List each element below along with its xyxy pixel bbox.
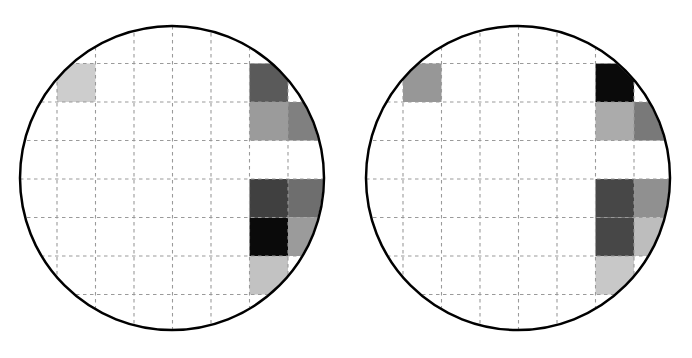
wafer-cell	[403, 64, 442, 103]
wafer-cell	[596, 218, 635, 257]
wafer-map-left-svg	[0, 0, 346, 358]
wafer-cell	[250, 256, 289, 295]
wafer-cell	[250, 102, 289, 141]
wafer-cell	[57, 64, 96, 103]
wafer-cell	[250, 64, 289, 103]
wafer-map-figure	[0, 0, 692, 358]
wafer-cell	[596, 256, 635, 295]
wafer-map-right-svg	[346, 0, 692, 358]
wafer-panel-right	[346, 0, 692, 358]
wafer-panel-left	[0, 0, 346, 358]
wafer-cell	[596, 102, 635, 141]
wafer-cell	[250, 179, 289, 218]
wafer-cell	[250, 218, 289, 257]
wafer-cell	[288, 218, 327, 257]
wafer-cell	[634, 218, 673, 257]
wafer-cell	[596, 64, 635, 103]
wafer-cell	[596, 179, 635, 218]
